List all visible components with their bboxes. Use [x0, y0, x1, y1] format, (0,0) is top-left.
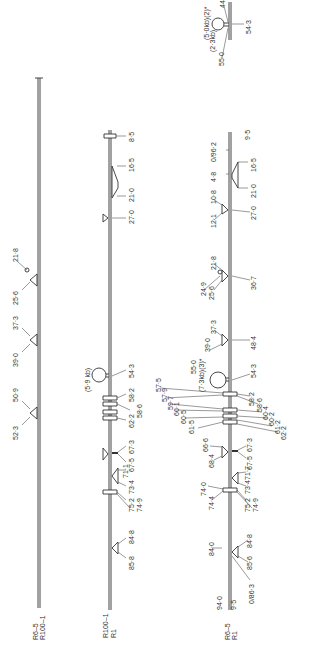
mid-label-58-2: 58·2 [128, 388, 135, 402]
right-label-68-4: 68·4 [208, 454, 215, 468]
mid-size-label: (5·9 kb) [84, 368, 92, 392]
right-label-60-5: 60·5 [180, 410, 187, 424]
right-label-16-5: 16·5 [250, 158, 257, 172]
left-end-label-2: R100–1 [39, 615, 46, 640]
right-label-39-0: 39·0 [204, 338, 211, 352]
middle-strand [92, 130, 130, 610]
right-label-74-4: 74·4 [208, 496, 215, 510]
mid-end-label-1: R100–1 [102, 613, 109, 638]
right-label-12-1: 12·1 [210, 214, 217, 228]
right-label-55-0: 55·0 [190, 360, 197, 374]
right-label-21-8: 21·8 [210, 256, 217, 270]
right-label-27-0: 27·0 [250, 206, 257, 220]
right-label-84-8: 84·8 [246, 534, 253, 548]
mid-label-8-5: 8·5 [128, 132, 135, 142]
right-strand [160, 132, 278, 610]
mid-label-73-4: 73·4 [128, 480, 135, 494]
inset-label-2-3kb: (2·3kb) [209, 30, 217, 52]
right-label-9-5-bottom: 9·5 [230, 600, 237, 610]
mid-end-label-2: R1 [110, 629, 117, 638]
mid-label-84-8: 84·8 [128, 530, 135, 544]
mid-label-21-0: 21·0 [128, 188, 135, 202]
right-label-75-2: 75·2 [244, 498, 251, 512]
right-label-4-8: 4·8 [210, 172, 217, 182]
right-end-label-2: R1 [231, 631, 238, 640]
right-label-9-5-top: 9·5 [244, 130, 251, 140]
right-label-48-4: 48·4 [250, 336, 257, 350]
right-label-73-4: 73·4 [244, 480, 251, 494]
inset-diagram [212, 2, 244, 58]
left-label-50-9: 50·9 [12, 388, 19, 402]
right-label-0-86-3: 0/86·3 [248, 584, 255, 604]
mid-label-71-1-vis: 71·1 [122, 464, 129, 478]
mid-label-54-3: 54·3 [128, 364, 135, 378]
mid-label-67-3: 67·3 [128, 440, 135, 454]
inset-label-55-0: 55·0 [218, 52, 225, 66]
mid-label-27-0: 27·0 [128, 210, 135, 224]
right-label-60-1: 60·1 [173, 402, 180, 416]
heteroduplex-diagram: 21·8 25·6 37·3 39·0 50·9 52·3 R6–5 R100–… [0, 0, 319, 664]
right-label-10-8: 10·8 [210, 190, 217, 204]
right-label-37-3: 37·3 [210, 320, 217, 334]
right-label-94-0: 94·0 [216, 596, 223, 610]
inset-label-44: 44 [219, 0, 226, 8]
mid-label-75-2: 75·2 [128, 498, 135, 512]
right-label-61-5: 61·5 [188, 420, 195, 434]
right-label-54-3: 54·3 [250, 364, 257, 378]
left-label-52-3: 52·3 [12, 426, 19, 440]
mid-label-74-9: 74·9 [136, 498, 143, 512]
inset-label-54-3: 54·3 [245, 20, 252, 34]
right-label-36-7: 36·7 [250, 276, 257, 290]
right-label-74-9: 74·9 [252, 498, 259, 512]
right-label-0-96-2: 0/96·2 [210, 142, 217, 162]
left-label-21-8: 21·8 [12, 248, 19, 262]
right-label-74-0: 74·0 [200, 482, 207, 496]
right-label-67-3: 67·3 [246, 438, 253, 452]
left-label-25-6: 25·6 [12, 291, 19, 305]
right-label-66-6: 66·6 [202, 438, 209, 452]
right-label-84-0: 84·0 [208, 542, 215, 556]
left-label-37-3: 37·3 [12, 316, 19, 330]
right-size-label: (7·3kb)(3)* [198, 358, 206, 392]
right-label-24-9: 24·9 [200, 282, 207, 296]
mid-label-85-8: 85·8 [128, 556, 135, 570]
right-label-25-6: 25·6 [208, 286, 215, 300]
right-label-62-2: 62·2 [280, 426, 287, 440]
right-end-label-1: R6–5 [224, 623, 231, 640]
right-label-85-6: 85·6 [246, 556, 253, 570]
left-end-label-1: R6–5 [32, 623, 39, 640]
mid-label-16-5: 16·5 [128, 158, 135, 172]
mid-label-67-5: 67·5 [128, 458, 135, 472]
left-label-39-0: 39·0 [12, 353, 19, 367]
mid-label-58-6: 58·6 [136, 404, 143, 418]
right-label-21-0: 21·0 [250, 184, 257, 198]
right-label-58-2: 58·2 [248, 392, 255, 406]
mid-label-62-2: 62·2 [128, 414, 135, 428]
right-label-71-7: 71·7 [244, 466, 251, 480]
left-strand [18, 78, 43, 608]
